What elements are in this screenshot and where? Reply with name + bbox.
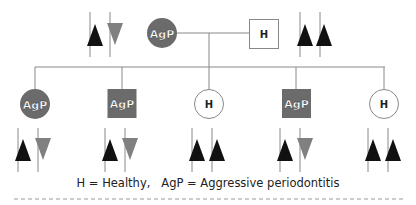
child-2-alleles bbox=[102, 128, 138, 172]
allele-down-gray-icon bbox=[107, 23, 123, 45]
allele-up-black-icon bbox=[297, 24, 313, 46]
child-5-alleles bbox=[365, 128, 401, 172]
child-1-affected-circle: AgP bbox=[20, 89, 50, 119]
node-label: AgP bbox=[110, 98, 134, 111]
allele-up-black-icon bbox=[385, 139, 401, 161]
father-alleles bbox=[297, 12, 332, 57]
node-label: AgP bbox=[284, 98, 308, 111]
allele-up-black-icon bbox=[189, 139, 205, 161]
mother-alleles bbox=[87, 12, 123, 57]
allele-up-black-icon bbox=[277, 139, 293, 161]
allele-up-black-icon bbox=[209, 139, 225, 161]
allele-down-gray-icon bbox=[297, 138, 313, 160]
child-4-affected-square: AgP bbox=[282, 89, 311, 118]
pedigree-diagram: AgP H AgP AgP H AgP H bbox=[0, 0, 416, 205]
legend: H = Healthy, AgP = Aggressive periodonti… bbox=[0, 176, 416, 190]
allele-up-black-icon bbox=[87, 24, 103, 46]
mother-affected-circle: AgP bbox=[147, 18, 177, 48]
allele-up-black-icon bbox=[102, 139, 118, 161]
allele-up-black-icon bbox=[365, 139, 381, 161]
allele-down-gray-icon bbox=[122, 138, 138, 160]
child-4-alleles bbox=[277, 128, 313, 172]
node-label: AgP bbox=[23, 99, 47, 112]
child-3-alleles bbox=[189, 128, 225, 172]
child-5-healthy-circle: H bbox=[370, 90, 399, 119]
node-label: H bbox=[205, 99, 213, 110]
father-healthy-square: H bbox=[250, 20, 279, 49]
child-2-affected-square: AgP bbox=[108, 89, 137, 118]
child-3-healthy-circle: H bbox=[195, 90, 224, 119]
child-1-alleles bbox=[15, 128, 51, 172]
node-label: AgP bbox=[150, 28, 174, 41]
allele-up-black-icon bbox=[316, 24, 332, 46]
node-label: H bbox=[380, 99, 388, 110]
allele-up-black-icon bbox=[15, 139, 31, 161]
node-label: H bbox=[260, 29, 268, 40]
allele-down-gray-icon bbox=[35, 138, 51, 160]
